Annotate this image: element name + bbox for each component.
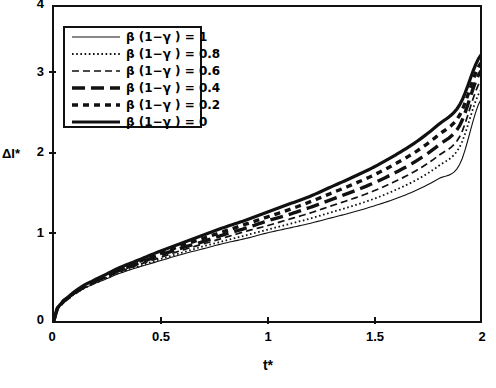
legend-line-sample-4 <box>71 98 121 112</box>
chart-canvas: 4 3 2 1 0 ΔI* 0 0.5 1 1.5 2 t* β (1−γ ) … <box>0 0 496 388</box>
legend-line-sample-2 <box>71 64 121 78</box>
legend-label-0: β (1−γ ) = 1 <box>126 30 207 44</box>
legend-line-sample-0 <box>71 30 121 44</box>
legend-label-1: β (1−γ ) = 0.8 <box>126 47 220 61</box>
legend-line-sample-5 <box>71 115 121 129</box>
legend-label-5: β (1−γ ) = 0 <box>126 115 207 129</box>
legend: β (1−γ ) = 1β (1−γ ) = 0.8β (1−γ ) = 0.6… <box>63 26 202 128</box>
legend-row-4: β (1−γ ) = 0.2 <box>65 97 200 113</box>
legend-row-3: β (1−γ ) = 0.4 <box>65 80 200 96</box>
legend-label-4: β (1−γ ) = 0.2 <box>126 98 220 112</box>
legend-line-sample-1 <box>71 47 121 61</box>
legend-label-2: β (1−γ ) = 0.6 <box>126 64 220 78</box>
legend-row-5: β (1−γ ) = 0 <box>65 114 200 130</box>
legend-row-0: β (1−γ ) = 1 <box>65 29 200 45</box>
legend-line-sample-3 <box>71 81 121 95</box>
legend-row-1: β (1−γ ) = 0.8 <box>65 46 200 62</box>
legend-row-2: β (1−γ ) = 0.6 <box>65 63 200 79</box>
legend-label-3: β (1−γ ) = 0.4 <box>126 81 220 95</box>
